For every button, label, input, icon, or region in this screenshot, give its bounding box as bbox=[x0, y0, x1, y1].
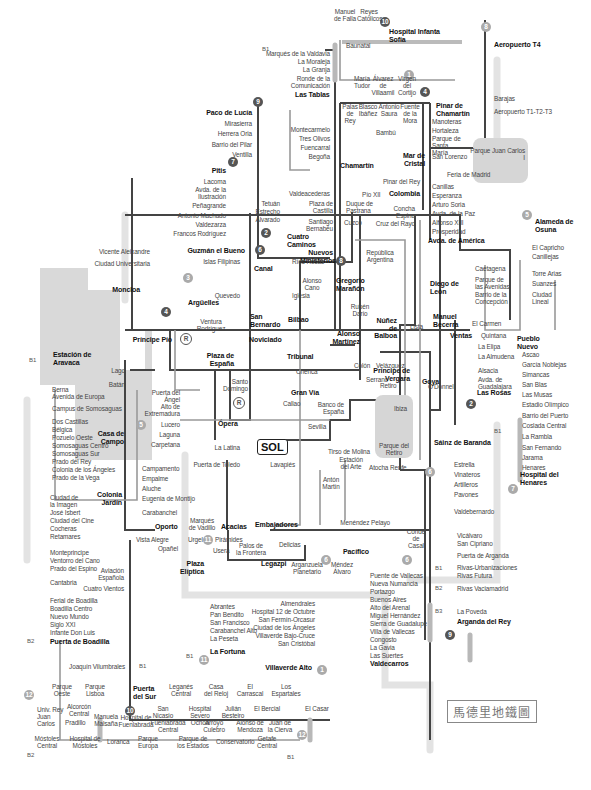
station-label[interactable]: Monteprincipe bbox=[50, 549, 89, 556]
station-label[interactable]: La Elipa bbox=[478, 343, 500, 350]
station-label[interactable]: Arroyo Culebro bbox=[202, 719, 226, 733]
station-label[interactable]: Pío XII bbox=[362, 191, 380, 198]
station-label[interactable]: Valdeacederas bbox=[289, 190, 330, 197]
station-label[interactable]: Henares bbox=[522, 464, 545, 471]
station-label[interactable]: Santiago Bernabéu bbox=[300, 218, 333, 232]
station-label[interactable]: Embajadores bbox=[255, 521, 298, 529]
station-label[interactable]: José Isbert bbox=[50, 509, 80, 516]
station-label[interactable]: Las Rosas bbox=[477, 389, 511, 397]
station-label[interactable]: Valdebernardo bbox=[454, 508, 494, 515]
station-label[interactable]: Montecarmelo bbox=[280, 126, 330, 133]
station-label[interactable]: Lago bbox=[100, 367, 125, 374]
line-badge-4-left[interactable]: 4 bbox=[161, 307, 171, 317]
station-label[interactable]: Cuzco bbox=[344, 219, 362, 226]
station-label[interactable]: Barrio del Puerto bbox=[522, 412, 568, 419]
station-label[interactable]: Iglesia bbox=[292, 292, 310, 299]
station-label[interactable]: Vicálvaro bbox=[457, 532, 482, 539]
station-label[interactable]: La Gavia bbox=[370, 644, 395, 651]
station-label[interactable]: García Noblejas bbox=[522, 361, 566, 368]
station-label[interactable]: Legazpi bbox=[261, 560, 286, 568]
station-label[interactable]: Pavones bbox=[454, 491, 478, 498]
station-label[interactable]: Arganzuela Planetario bbox=[291, 561, 323, 575]
station-label[interactable]: Somosaguas Sur bbox=[52, 450, 100, 457]
station-label[interactable]: Colonia de los Ángeles bbox=[52, 466, 115, 473]
station-label[interactable]: Artilleros bbox=[454, 481, 478, 488]
station-label[interactable]: Valdezarza bbox=[170, 221, 226, 228]
station-label[interactable]: San Nicasio bbox=[152, 705, 174, 719]
station-label[interactable]: Parque Oeste bbox=[50, 683, 74, 697]
station-label[interactable]: Antón Martín bbox=[320, 476, 342, 490]
station-label[interactable]: Nuevo Mundo bbox=[50, 613, 89, 620]
station-label[interactable]: Ríos Rosas bbox=[292, 258, 324, 265]
station-label[interactable]: Tirso de Molina bbox=[328, 448, 370, 455]
station-label[interactable]: Fuenlabrada Central bbox=[150, 719, 186, 733]
station-label[interactable]: Loranca bbox=[107, 738, 129, 745]
station-label[interactable]: Alonso de Mendoza bbox=[235, 719, 265, 733]
station-label[interactable]: Alonso Cano bbox=[300, 277, 324, 291]
station-label[interactable]: Baunatal bbox=[346, 42, 370, 49]
station-label[interactable]: Carabanchel bbox=[142, 509, 177, 516]
station-label[interactable]: La Rambla bbox=[522, 433, 552, 440]
station-label[interactable]: Hospital Infanta Sofía bbox=[389, 28, 444, 43]
station-label[interactable]: Prado del Espino bbox=[50, 565, 97, 572]
station-label[interactable]: Nueva Numancia bbox=[370, 580, 418, 587]
station-label[interactable]: Prado de la Vega bbox=[52, 474, 99, 481]
station-label[interactable]: Menéndez Pelayo bbox=[330, 519, 390, 526]
station-label[interactable]: San Fermín-Orcasur bbox=[255, 616, 315, 623]
station-label[interactable]: Lucero bbox=[140, 421, 180, 428]
station-label[interactable]: La Fortuna bbox=[210, 648, 245, 656]
station-label[interactable]: Aeropuerto T1-T2-T3 bbox=[494, 108, 552, 115]
station-label[interactable]: Univ. Rey Juan Carlos bbox=[37, 706, 67, 727]
station-label[interactable]: Tres Olivos bbox=[280, 135, 330, 142]
line-badge-4-top[interactable]: 4 bbox=[420, 87, 430, 97]
station-label[interactable]: Alcorcón Central bbox=[66, 703, 92, 717]
station-label[interactable]: Villaverde Alto bbox=[255, 664, 312, 672]
station-label[interactable]: Alfonso XIII bbox=[432, 219, 463, 226]
line-badge-5-right[interactable]: 5 bbox=[522, 210, 532, 220]
station-label[interactable]: Ventorro del Cano bbox=[50, 557, 100, 564]
station-label[interactable]: Ciudad Lineal bbox=[532, 291, 560, 305]
line-badge-11-top[interactable]: 11 bbox=[203, 535, 213, 545]
station-label[interactable]: Noviciado bbox=[249, 336, 282, 344]
station-label[interactable]: Hospital de Fuenlabrada bbox=[118, 714, 154, 728]
line-badge-6-top[interactable]: 6 bbox=[255, 245, 265, 255]
station-label[interactable]: Cocheras bbox=[50, 525, 77, 532]
station-label[interactable]: Conde de Casal bbox=[405, 528, 427, 549]
line-badge-6-right[interactable]: 6 bbox=[425, 467, 435, 477]
station-label[interactable]: Paco de Lucía bbox=[200, 109, 252, 117]
station-label[interactable]: Reyes Católicos bbox=[357, 8, 381, 22]
station-label[interactable]: Torre Arias bbox=[532, 270, 561, 277]
station-label[interactable]: Puerta de Arganda bbox=[457, 552, 509, 559]
station-label[interactable]: Casa del Reloj bbox=[204, 683, 228, 697]
line-badge-11-bottom[interactable]: 11 bbox=[199, 655, 209, 665]
station-label[interactable]: Bilbao bbox=[288, 316, 309, 324]
station-label[interactable]: Boadilla Centro bbox=[50, 605, 92, 612]
station-label[interactable]: Palas de Rey bbox=[341, 103, 359, 124]
station-label[interactable]: Quevedo bbox=[200, 292, 240, 299]
station-label[interactable]: Pan Bendito bbox=[210, 611, 244, 618]
station-label[interactable]: Plaza de España bbox=[200, 352, 234, 367]
line-badge-12-right[interactable]: 12 bbox=[297, 730, 307, 740]
station-label[interactable]: Fuente de la Mora bbox=[400, 103, 420, 124]
station-label[interactable]: Vinateros bbox=[454, 471, 480, 478]
station-label[interactable]: Manoteras bbox=[432, 118, 461, 125]
station-label[interactable]: Banco de España bbox=[312, 401, 344, 415]
station-label[interactable]: Ronde de la Comunicación bbox=[283, 75, 330, 89]
station-label[interactable]: Retiro bbox=[380, 382, 396, 389]
station-label[interactable]: El Carrascal bbox=[236, 683, 264, 697]
station-label[interactable]: La Peseta bbox=[210, 635, 238, 642]
station-label[interactable]: Vista Alegre bbox=[136, 536, 169, 543]
station-label[interactable]: Herrera Oria bbox=[200, 130, 252, 137]
station-label[interactable]: Antonio Saura bbox=[378, 103, 400, 117]
station-label[interactable]: Congosto bbox=[370, 636, 397, 643]
station-label[interactable]: Estrella bbox=[454, 461, 475, 468]
station-label[interactable]: Alameda de Osuna bbox=[535, 218, 575, 233]
station-label[interactable]: Pinar de Chamartín bbox=[436, 102, 474, 117]
station-label[interactable]: Estación de Aravaca bbox=[53, 351, 93, 366]
station-label[interactable]: Campamento bbox=[142, 465, 179, 472]
station-label[interactable]: Ventura Rodríguez bbox=[196, 318, 226, 332]
station-label[interactable]: Alto del Arenal bbox=[370, 604, 410, 611]
station-label[interactable]: El Casar bbox=[305, 705, 329, 712]
station-label[interactable]: Colombia bbox=[385, 190, 420, 198]
station-label[interactable]: San Cristóbal bbox=[255, 640, 315, 647]
